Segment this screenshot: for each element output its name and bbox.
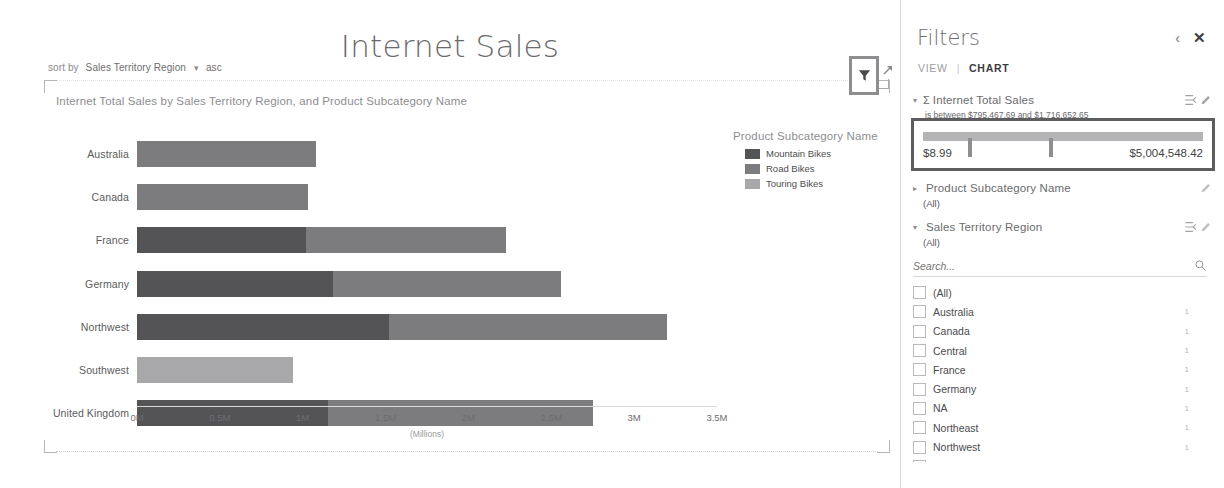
legend-swatch <box>745 179 760 189</box>
checkbox[interactable] <box>913 363 926 376</box>
filter-internet-total-sales: ▾ Σ Internet Total Sales is between $795… <box>901 92 1224 120</box>
checkbox[interactable] <box>913 402 926 415</box>
region-option-list: (All)Australia1Canada1Central1France1Ger… <box>913 283 1213 476</box>
category-label: Canada <box>9 191 129 203</box>
pencil-icon[interactable] <box>1198 220 1213 234</box>
bar-chart: AustraliaCanadaFranceGermanyNorthwestSou… <box>0 0 900 488</box>
region-option-row[interactable]: Canada1 <box>913 322 1213 341</box>
legend-label: Touring Bikes <box>766 178 823 189</box>
category-label: Northwest <box>9 321 129 333</box>
filter-header[interactable]: ▸ Product Subcategory Name <box>901 180 1224 196</box>
legend-label: Road Bikes <box>766 163 815 174</box>
checkbox[interactable] <box>913 325 926 338</box>
slider-handle-min[interactable] <box>968 138 972 157</box>
x-axis-tick-label: 2.5M <box>541 412 562 423</box>
region-option-count: 1 <box>1185 307 1189 316</box>
filters-title: Filters <box>917 26 980 50</box>
close-icon[interactable]: ✕ <box>1193 29 1206 47</box>
bar-segment[interactable] <box>137 141 316 167</box>
region-option-count: 1 <box>1185 346 1189 355</box>
region-option-row[interactable]: Australia1 <box>913 302 1213 321</box>
reset-filter-icon[interactable] <box>1183 220 1198 234</box>
category-label: Germany <box>9 278 129 290</box>
region-option-row[interactable]: Germany1 <box>913 379 1213 398</box>
x-axis-tick-label: 0.5M <box>209 412 230 423</box>
x-axis-tick-label: 1M <box>296 412 309 423</box>
legend-swatch <box>745 149 760 159</box>
checkbox[interactable] <box>913 383 926 396</box>
legend-item[interactable]: Mountain Bikes <box>745 148 878 159</box>
checkbox[interactable] <box>913 286 926 299</box>
bar-segment[interactable] <box>137 227 306 253</box>
filter-name: Internet Total Sales <box>933 94 1034 106</box>
region-option-label: Central <box>933 345 967 357</box>
region-option-row[interactable]: Northwest1 <box>913 437 1213 456</box>
bar-segment[interactable] <box>137 357 293 383</box>
slider-min-label: $8.99 <box>923 147 952 159</box>
category-label: Southwest <box>9 364 129 376</box>
slider-track[interactable] <box>923 132 1203 141</box>
x-axis-tick-label: 3M <box>627 412 640 423</box>
region-option-count: 1 <box>1185 423 1189 432</box>
report-canvas: Internet Sales sort by Sales Territory R… <box>0 0 900 488</box>
sigma-icon: Σ <box>923 94 930 106</box>
legend-swatch <box>745 164 760 174</box>
triangle-down-icon[interactable]: ▾ <box>913 223 923 232</box>
bar-segment[interactable] <box>389 314 667 340</box>
checkbox[interactable] <box>913 421 926 434</box>
legend-items: Mountain BikesRoad BikesTouring Bikes <box>733 148 878 189</box>
pencil-icon[interactable] <box>1198 93 1213 107</box>
legend-item[interactable]: Road Bikes <box>745 163 878 174</box>
category-label: France <box>9 234 129 246</box>
reset-filter-icon[interactable] <box>1183 93 1198 107</box>
slider-max-label: $5,004,548.42 <box>1129 147 1203 159</box>
region-option-row[interactable]: France1 <box>913 360 1213 379</box>
search-icon[interactable] <box>1194 259 1207 272</box>
checkbox[interactable] <box>913 344 926 357</box>
chart-legend: Product Subcategory Name Mountain BikesR… <box>733 130 878 193</box>
legend-title: Product Subcategory Name <box>733 130 878 142</box>
x-axis-tick-label: 2M <box>462 412 475 423</box>
region-option-row[interactable]: NA1 <box>913 399 1213 418</box>
filter-header[interactable]: ▾ Σ Internet Total Sales <box>901 92 1224 108</box>
filter-header[interactable]: ▾ Sales Territory Region <box>901 219 1224 235</box>
bar-segment[interactable] <box>306 227 506 253</box>
filters-panel: Filters ‹ ✕ VIEW | CHART ▾ Σ Internet To… <box>900 0 1224 488</box>
pencil-icon[interactable] <box>1198 181 1213 195</box>
checkbox[interactable] <box>913 441 926 454</box>
filter-value: (All) <box>923 198 1224 209</box>
range-slider-control[interactable]: $8.99 $5,004,548.42 <box>911 118 1215 171</box>
region-option-count: 1 <box>1185 385 1189 394</box>
bar-segment[interactable] <box>137 271 333 297</box>
region-option-label: (All) <box>933 287 952 299</box>
x-axis-tick-label: 0M <box>130 412 143 423</box>
x-axis-line <box>137 406 717 407</box>
bar-segment[interactable] <box>137 314 389 340</box>
bar-segment[interactable] <box>137 184 308 210</box>
search-input[interactable] <box>913 260 1194 272</box>
triangle-down-icon[interactable]: ▾ <box>913 96 923 105</box>
region-option-row[interactable]: (All) <box>913 283 1213 302</box>
region-option-label: Northwest <box>933 441 980 453</box>
region-option-row[interactable]: Northeast1 <box>913 418 1213 437</box>
triangle-right-icon[interactable]: ▸ <box>913 184 923 193</box>
slider-handle-max[interactable] <box>1049 138 1053 157</box>
checkbox[interactable] <box>913 305 926 318</box>
tab-view[interactable]: VIEW <box>918 62 948 74</box>
chevron-left-icon[interactable]: ‹ <box>1175 30 1180 46</box>
region-option-count: 1 <box>1185 365 1189 374</box>
bar-segment[interactable] <box>333 271 562 297</box>
filter-value: (All) <box>923 237 1224 248</box>
category-label: Australia <box>9 148 129 160</box>
list-fade-overlay <box>901 462 1224 488</box>
search-row[interactable] <box>913 255 1207 277</box>
legend-item[interactable]: Touring Bikes <box>745 178 878 189</box>
region-option-label: Canada <box>933 325 970 337</box>
filters-view-tabs: VIEW | CHART <box>918 62 1009 74</box>
tab-chart[interactable]: CHART <box>969 62 1009 74</box>
region-option-count: 1 <box>1185 404 1189 413</box>
filter-name: Sales Territory Region <box>926 221 1042 233</box>
region-option-row[interactable]: Central1 <box>913 341 1213 360</box>
tab-separator: | <box>957 62 960 74</box>
x-axis-unit-label: (Millions) <box>410 429 444 439</box>
